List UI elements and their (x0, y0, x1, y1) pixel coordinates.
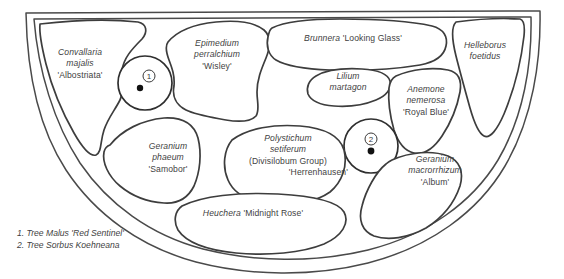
plant-label-line: 'Royal Blue' (386, 107, 466, 118)
plant-label-epimedium: Epimedium perralchium 'Wisley' (172, 38, 262, 72)
tree-circle-1 (118, 56, 172, 110)
plant-label-line: Geranium (386, 154, 484, 165)
tree-marker-label-1: 1 (143, 72, 155, 81)
plant-label-line: 'Wisley' (172, 61, 262, 72)
plant-label-line: phaeum (123, 152, 213, 163)
plant-label-anemone: Anemone nemerosa 'Royal Blue' (386, 84, 466, 118)
plant-genus: Brunnera (304, 33, 340, 43)
plant-label-line: macrorrhizum (386, 165, 484, 176)
plant-genus: Heuchera (203, 208, 241, 218)
plant-label-line: majalis (37, 58, 123, 69)
plant-label-line: 'Album' (386, 177, 484, 188)
plant-label-line: martagon (310, 82, 386, 93)
plant-label-line: nemerosa (386, 95, 466, 106)
plant-label-brunnera: Brunnera 'Looking Glass' (286, 33, 420, 44)
plant-label-polystichum: Polystichum setiferum (Divisilobum Group… (228, 133, 348, 179)
plant-label-line: 'Albostriata' (37, 70, 123, 81)
plant-label-heuchera: Heuchera 'Midnight Rose' (183, 208, 323, 219)
plant-label-line: Epimedium (172, 38, 262, 49)
plant-label-line: Lilium (310, 71, 386, 82)
plant-label-line: Anemone (386, 84, 466, 95)
plant-label-line: perralchium (172, 49, 262, 60)
tree-dot-1 (137, 85, 143, 91)
plant-label-line: Convallaria (37, 47, 123, 58)
plant-label-convallaria: Convallaria majalis 'Albostriata' (37, 47, 123, 81)
plant-label-line: Polystichum (228, 133, 348, 144)
legend-item: 1. Tree Malus 'Red Sentinel' (17, 228, 124, 240)
bed-shape-heuchera (175, 194, 346, 255)
plant-label-line: 'Herrenhausen' (228, 167, 348, 178)
garden-planting-plan: Convallaria majalis 'Albostriata' Epimed… (0, 0, 564, 279)
plant-label-geranium-macrorrhizum: Geranium macrorrhizum 'Album' (386, 154, 484, 188)
plant-label-line: setiferum (228, 144, 348, 155)
tree-marker-label-2: 2 (365, 135, 377, 144)
plant-label-line: Brunnera 'Looking Glass' (286, 33, 420, 44)
plant-label-line: Geranium (123, 141, 213, 152)
plant-cultivar: 'Midnight Rose' (243, 208, 303, 218)
legend-item: 2. Tree Sorbus Koehneana (17, 240, 124, 252)
legend: 1. Tree Malus 'Red Sentinel' 2. Tree Sor… (17, 228, 124, 251)
plant-label-line: Helleborus (443, 40, 527, 51)
plant-cultivar: 'Looking Glass' (343, 33, 402, 43)
plant-label-line: foetidus (443, 51, 527, 62)
plant-label-line: 'Samobor' (123, 164, 213, 175)
plant-label-lilium: Lilium martagon (310, 71, 386, 94)
plant-label-line: Heuchera 'Midnight Rose' (183, 208, 323, 219)
bed-shape-brunnera (267, 19, 446, 70)
plant-label-geranium-phaeum: Geranium phaeum 'Samobor' (123, 141, 213, 175)
tree-dot-2 (368, 148, 375, 155)
plant-label-line: (Divisilobum Group) (228, 156, 348, 167)
plant-label-helleborus: Helleborus foetidus (443, 40, 527, 63)
